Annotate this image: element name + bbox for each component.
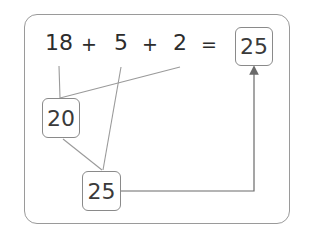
term-5: 5 xyxy=(114,32,128,54)
line-5-to-25 xyxy=(103,67,121,170)
plus-operator-2: + xyxy=(142,35,158,54)
result-box: 25 xyxy=(235,27,273,66)
equals-operator: = xyxy=(201,35,217,54)
plus-operator-1: + xyxy=(81,35,97,54)
term-2: 2 xyxy=(173,32,187,54)
term-18: 18 xyxy=(45,32,73,54)
second-sum-box: 25 xyxy=(82,171,121,211)
arrow-to-result xyxy=(121,70,254,191)
first-sum-box: 20 xyxy=(42,98,80,138)
line-20-to-25 xyxy=(63,139,102,170)
line-18-to-20 xyxy=(59,66,60,98)
